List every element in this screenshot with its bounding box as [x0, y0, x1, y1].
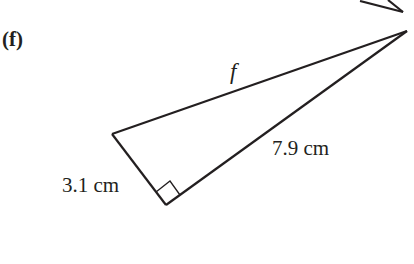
short-leg-label: 3.1 cm — [62, 173, 119, 197]
long-leg-label: 7.9 cm — [272, 136, 329, 160]
long-leg — [166, 31, 407, 205]
hypotenuse-label: f — [230, 59, 240, 84]
part-label: (f) — [2, 27, 23, 51]
right-triangle — [112, 31, 407, 205]
figure-canvas: (f) f 7.9 cm 3.1 cm — [0, 0, 414, 264]
previous-figure-fragment — [360, 0, 403, 12]
right-angle-marker — [156, 181, 180, 195]
hypotenuse-f — [112, 31, 407, 134]
short-leg — [112, 134, 166, 205]
